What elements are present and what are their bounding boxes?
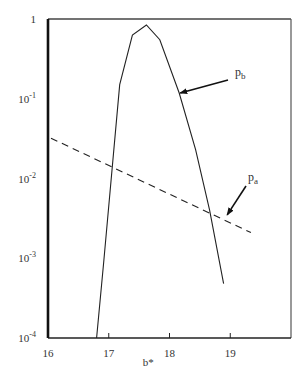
y-tick-label: 10-2: [18, 171, 36, 185]
annotations: pbpa: [180, 65, 258, 215]
label-pa: pa: [248, 170, 258, 186]
x-tick-label: 19: [225, 347, 237, 359]
label-pb: pb: [235, 65, 246, 81]
y-tick-label: 10-1: [18, 91, 36, 105]
series-p-b: [97, 25, 224, 338]
y-tick-label: 10-4: [18, 330, 36, 344]
x-tick-label: 16: [43, 347, 55, 359]
x-tick-label: 17: [103, 347, 115, 359]
arrow-pa: [227, 186, 246, 215]
x-tick-label: 18: [164, 347, 176, 359]
series-p-a: [51, 138, 251, 232]
y-tick-label: 10-3: [18, 250, 36, 264]
y-tick-label: 1: [31, 13, 37, 25]
arrow-pb: [180, 80, 228, 93]
chart-canvas: 16171819b*110-110-210-310-4 pbpa: [0, 0, 307, 382]
axis-labels: 16171819b*110-110-210-310-4: [18, 13, 236, 368]
x-axis-label: b*: [143, 356, 154, 368]
plot-series: [51, 25, 251, 338]
